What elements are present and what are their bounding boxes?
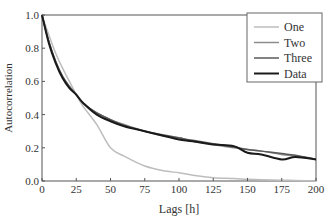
- y-tick-label: 0.8: [25, 42, 39, 54]
- y-tick-label: 0.0: [25, 175, 39, 187]
- x-tick-label: 125: [205, 183, 222, 195]
- y-axis-label: Autocorrelation: [2, 63, 14, 133]
- legend-label-one: One: [284, 20, 304, 34]
- x-tick-label: 75: [139, 183, 151, 195]
- legend-label-three: Three: [284, 51, 312, 65]
- autocorrelation-chart: 02550751001251501752000.00.20.40.60.81.0…: [0, 0, 335, 223]
- x-tick-label: 150: [239, 183, 256, 195]
- y-tick-label: 0.2: [25, 142, 39, 154]
- x-tick-label: 175: [274, 183, 291, 195]
- y-tick-label: 0.4: [25, 109, 39, 121]
- x-tick-label: 100: [171, 183, 188, 195]
- x-tick-label: 200: [308, 183, 325, 195]
- legend-label-data: Data: [284, 67, 307, 81]
- legend-label-two: Two: [284, 36, 305, 50]
- legend: OneTwoThreeData: [247, 13, 322, 82]
- x-axis-label: Lags [h]: [159, 202, 199, 216]
- chart-svg: 02550751001251501752000.00.20.40.60.81.0…: [0, 0, 335, 223]
- y-tick-label: 0.6: [25, 75, 39, 87]
- x-tick-label: 25: [71, 183, 83, 195]
- x-tick-label: 50: [105, 183, 117, 195]
- y-tick-label: 1.0: [25, 9, 39, 21]
- x-tick-label: 0: [39, 183, 45, 195]
